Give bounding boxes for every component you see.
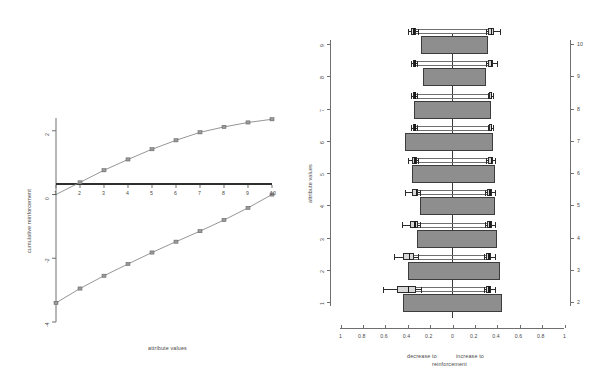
boxplot-median — [414, 60, 415, 67]
tornado-bar — [403, 294, 502, 312]
right-chart-left-y-tickmark — [327, 302, 330, 303]
right-tornado-chart-panel: 10.80.60.40.200.20.40.60.81 123456789 23… — [0, 0, 601, 385]
right-chart-right-y-tickmark — [571, 205, 574, 206]
right-chart-x-tick: 0 — [451, 333, 454, 339]
boxplot-connector-rail — [413, 29, 490, 30]
right-chart-x-tickmark — [385, 325, 386, 328]
right-chart-x-tickmark — [430, 325, 431, 328]
boxplot-whisker-cap — [411, 61, 412, 67]
right-chart-x-tickmark — [520, 325, 521, 328]
right-chart-x-tick: 0.8 — [537, 333, 545, 339]
boxplot-whisker-cap — [420, 190, 421, 196]
boxplot-median — [488, 286, 489, 293]
boxplot-median — [414, 157, 415, 164]
boxplot-whisker-cap — [484, 287, 485, 293]
boxplot-connector-rail — [416, 194, 490, 195]
boxplot-whisker-cap — [421, 287, 422, 293]
boxplot-whisker-cap — [495, 222, 496, 228]
boxplot-whisker-cap — [408, 158, 409, 164]
boxplot-connector-rail — [413, 33, 490, 34]
right-chart-left-y-tickmark — [327, 270, 330, 271]
boxplot-whisker-cap — [495, 190, 496, 196]
boxplot-connector-rail — [414, 61, 490, 62]
boxplot-median — [414, 92, 415, 99]
right-chart-left-y-tickmark — [327, 76, 330, 77]
right-chart-x-tick: 1 — [563, 333, 566, 339]
boxplot-connector-rail — [414, 162, 490, 163]
boxplot-connector-rail — [414, 227, 489, 228]
boxplot-median — [491, 124, 492, 131]
right-chart-left-y-tickmark — [327, 173, 330, 174]
tornado-bar — [408, 262, 500, 280]
right-chart-right-y-tickmark — [571, 141, 574, 142]
tornado-bar — [412, 165, 495, 183]
boxplot-median — [491, 28, 492, 35]
right-chart-right-y-tick: 4 — [577, 235, 580, 241]
right-chart-xlabel-reinforcement: reinforcement — [432, 361, 467, 367]
right-chart-x-tickmark — [565, 325, 566, 328]
right-chart-left-y-tickmark — [327, 141, 330, 142]
right-chart-right-y-tick: 5 — [577, 202, 580, 208]
tornado-bar — [420, 197, 495, 215]
right-chart-x-tickmark — [497, 325, 498, 328]
boxplot-whisker-cap — [394, 254, 395, 260]
boxplot-whisker-cap — [411, 93, 412, 99]
boxplot-whisker-cap — [500, 29, 501, 35]
right-chart-left-y-tick: 9 — [319, 44, 325, 47]
right-chart-right-y-tickmark — [571, 44, 574, 45]
boxplot-whisker-cap — [418, 158, 419, 164]
right-chart-left-axis-line — [330, 40, 331, 306]
boxplot-whisker-cap — [495, 254, 496, 260]
boxplot-whisker-cap — [484, 254, 485, 260]
right-chart-right-y-tick: 7 — [577, 138, 580, 144]
boxplot-whisker-cap — [418, 254, 419, 260]
boxplot-whisker-cap — [495, 158, 496, 164]
right-chart-left-y-tick: 4 — [319, 205, 325, 208]
boxplot-connector-rail — [408, 287, 489, 288]
right-chart-left-y-tick: 3 — [319, 238, 325, 241]
boxplot-whisker-cap — [486, 158, 487, 164]
right-chart-x-tickmark — [453, 325, 454, 328]
boxplot-whisker-cap — [485, 190, 486, 196]
boxplot-median — [491, 60, 492, 67]
boxplot-connector-rail — [416, 190, 490, 191]
boxplot-connector-rail — [414, 126, 490, 127]
boxplot-connector-rail — [414, 130, 490, 131]
right-chart-right-y-tick: 3 — [577, 267, 580, 273]
right-chart-x-tick: 0.6 — [515, 333, 523, 339]
right-chart-left-y-tick: 2 — [319, 270, 325, 273]
right-chart-x-tick: 0.4 — [403, 333, 411, 339]
boxplot-whisker-cap — [417, 61, 418, 67]
right-chart-x-tickmark — [341, 325, 342, 328]
figure-canvas: 12345678910 20-2-4 attribute values cumu… — [0, 0, 601, 385]
right-chart-right-y-tick: 10 — [577, 41, 583, 47]
boxplot-connector-rail — [408, 291, 489, 292]
boxplot-whisker-cap — [402, 222, 403, 228]
right-chart-x-tick: 0.2 — [425, 333, 433, 339]
boxplot-whisker-cap — [417, 93, 418, 99]
right-chart-left-y-tick: 1 — [319, 302, 325, 305]
boxplot-connector-rail — [414, 158, 490, 159]
boxplot-median — [416, 189, 417, 196]
boxplot-connector-rail — [414, 65, 490, 66]
right-chart-left-y-tickmark — [327, 238, 330, 239]
boxplot-connector-rail — [414, 223, 489, 224]
right-chart-left-y-tickmark — [327, 44, 330, 45]
right-chart-x-tick: 0.6 — [380, 333, 388, 339]
right-chart-left-y-tick: 8 — [319, 76, 325, 79]
boxplot-whisker-cap — [485, 222, 486, 228]
boxplot-median — [488, 253, 489, 260]
boxplot-median — [491, 157, 492, 164]
right-chart-right-y-tick: 2 — [577, 299, 580, 305]
right-chart-right-y-tickmark — [571, 76, 574, 77]
right-chart-y-axis-title: attribute values — [307, 164, 313, 203]
right-chart-left-y-tick: 5 — [319, 173, 325, 176]
boxplot-median — [489, 189, 490, 196]
boxplot-median — [409, 253, 410, 260]
right-chart-x-tick: 0.8 — [358, 333, 366, 339]
right-chart-x-axis-line — [340, 328, 564, 329]
boxplot-whisker-cap — [383, 287, 384, 293]
right-chart-x-tickmark — [475, 325, 476, 328]
right-chart-left-y-tick: 6 — [319, 141, 325, 144]
boxplot-whisker-cap — [405, 190, 406, 196]
